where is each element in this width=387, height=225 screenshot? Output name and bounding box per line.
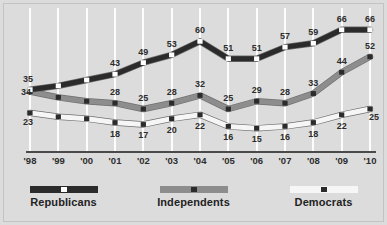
data-point-marker bbox=[311, 91, 316, 96]
value-label: 16 bbox=[223, 132, 233, 142]
data-point-marker bbox=[282, 101, 287, 106]
data-point-marker bbox=[169, 116, 174, 121]
value-label: 16 bbox=[280, 132, 290, 142]
value-label: 51 bbox=[252, 43, 262, 53]
value-label: 66 bbox=[365, 14, 375, 24]
data-point-marker bbox=[84, 116, 89, 121]
value-label: 23 bbox=[23, 117, 33, 127]
x-axis-label: '09 bbox=[335, 155, 348, 166]
data-point-marker bbox=[254, 99, 259, 104]
data-point-marker bbox=[311, 120, 316, 125]
data-point-marker bbox=[141, 122, 146, 127]
x-axis-label: '03 bbox=[165, 155, 178, 166]
data-point-marker bbox=[226, 124, 231, 129]
value-label: 43 bbox=[110, 58, 120, 68]
value-label: 17 bbox=[138, 130, 148, 140]
x-axis-label: '02 bbox=[137, 155, 150, 166]
legend-swatch-independents bbox=[160, 186, 228, 193]
data-point-marker bbox=[282, 124, 287, 129]
value-label: 53 bbox=[167, 39, 177, 49]
value-label: 28 bbox=[110, 87, 120, 97]
data-point-marker bbox=[141, 107, 146, 112]
data-point-marker bbox=[226, 56, 231, 61]
data-point-marker bbox=[169, 101, 174, 106]
value-label: 52 bbox=[365, 41, 375, 51]
data-point-marker bbox=[367, 107, 372, 112]
value-label: 34 bbox=[21, 87, 31, 97]
x-axis-label: '04 bbox=[194, 155, 207, 166]
x-axis-label: '01 bbox=[109, 155, 122, 166]
data-point-marker bbox=[56, 83, 61, 88]
x-axis-label: '05 bbox=[222, 155, 235, 166]
legend-swatch-republicans bbox=[30, 186, 98, 193]
value-label: 57 bbox=[280, 31, 290, 41]
legend-item-democrats[interactable]: Democrats bbox=[276, 186, 372, 208]
x-axis-labels: '98'99'00'01'02'03'04'05'06'07'08'09'10 bbox=[8, 155, 379, 169]
chart-container: 3543495360515157596666342825283225292833… bbox=[0, 0, 387, 225]
series-layer bbox=[8, 8, 379, 153]
data-point-marker bbox=[27, 110, 32, 115]
data-point-marker bbox=[56, 95, 61, 100]
data-point-marker bbox=[282, 45, 287, 50]
data-point-marker bbox=[84, 99, 89, 104]
value-label: 22 bbox=[195, 121, 205, 131]
legend-label-independents: Independents bbox=[157, 196, 230, 208]
x-axis-label: '08 bbox=[307, 155, 320, 166]
value-label: 49 bbox=[138, 47, 148, 57]
value-label: 18 bbox=[110, 129, 120, 139]
data-point-marker bbox=[112, 120, 117, 125]
data-point-marker bbox=[311, 41, 316, 46]
legend-label-republicans: Republicans bbox=[30, 196, 97, 208]
data-point-marker bbox=[367, 54, 372, 59]
value-label: 59 bbox=[308, 27, 318, 37]
value-label: 18 bbox=[308, 129, 318, 139]
data-point-marker bbox=[197, 112, 202, 117]
x-axis-label: '06 bbox=[250, 155, 263, 166]
data-point-marker bbox=[169, 52, 174, 57]
data-point-marker bbox=[197, 39, 202, 44]
data-point-marker bbox=[339, 70, 344, 75]
data-point-marker bbox=[254, 56, 259, 61]
legend-swatch-democrats bbox=[290, 186, 358, 193]
value-label: 66 bbox=[337, 14, 347, 24]
value-label: 33 bbox=[308, 78, 318, 88]
x-axis-label: '98 bbox=[24, 155, 37, 166]
legend-swatch-marker bbox=[321, 187, 327, 192]
x-axis-line bbox=[26, 151, 376, 153]
value-label: 60 bbox=[195, 25, 205, 35]
data-point-marker bbox=[112, 72, 117, 77]
value-label: 51 bbox=[223, 43, 233, 53]
value-label: 25 bbox=[138, 93, 148, 103]
value-label: 15 bbox=[252, 134, 262, 144]
data-point-marker bbox=[141, 60, 146, 65]
data-point-marker bbox=[56, 114, 61, 119]
legend-swatch-marker bbox=[61, 187, 67, 192]
data-point-marker bbox=[226, 107, 231, 112]
data-point-marker bbox=[339, 112, 344, 117]
data-point-marker bbox=[197, 93, 202, 98]
x-axis-label: '10 bbox=[364, 155, 377, 166]
value-label: 28 bbox=[280, 87, 290, 97]
value-label: 22 bbox=[337, 121, 347, 131]
legend-label-democrats: Democrats bbox=[295, 196, 353, 208]
x-axis-label: '00 bbox=[80, 155, 93, 166]
x-axis-label: '99 bbox=[52, 155, 65, 166]
chart-legend: Republicans Independents Democrats bbox=[0, 186, 387, 220]
legend-swatch-marker bbox=[191, 187, 197, 192]
x-axis-label: '07 bbox=[279, 155, 292, 166]
data-point-marker bbox=[112, 101, 117, 106]
value-label: 44 bbox=[337, 56, 347, 66]
value-label: 28 bbox=[167, 87, 177, 97]
legend-item-independents[interactable]: Independents bbox=[146, 186, 242, 208]
data-point-marker bbox=[367, 27, 372, 32]
data-point-marker bbox=[339, 27, 344, 32]
value-label: 29 bbox=[252, 85, 262, 95]
value-label: 25 bbox=[223, 93, 233, 103]
plot-area: 3543495360515157596666342825283225292833… bbox=[8, 8, 379, 153]
value-label: 20 bbox=[167, 125, 177, 135]
data-point-marker bbox=[84, 78, 89, 83]
value-label: 32 bbox=[195, 79, 205, 89]
value-label: 35 bbox=[23, 74, 33, 84]
value-label: 25 bbox=[369, 112, 379, 122]
legend-item-republicans[interactable]: Republicans bbox=[16, 186, 112, 208]
